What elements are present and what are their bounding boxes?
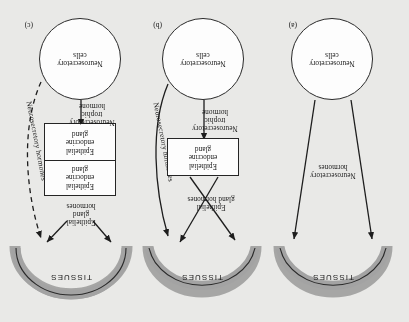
neurosecretory-cells-node: Neurosecretory cells xyxy=(39,18,121,100)
label-neurosecretory-trophic-hormone: Neurosecretory trophic hormone xyxy=(61,101,123,126)
label-epithelial-gland-hormones: Epithelial gland hormones xyxy=(53,201,109,226)
tissues-label: TISSUES xyxy=(181,273,223,282)
epithelial-endocrine-gland-box: Epithelial endocrine gland xyxy=(167,138,239,176)
epithelial-endocrine-gland-box-2: Epithelial endocrine gland xyxy=(44,158,116,196)
label-neurosecretory-trophic-hormone: Neurosecretory trophic hormone xyxy=(184,107,246,132)
figure-canvas: TISSUES Neurosecretory hormones Neurosec… xyxy=(0,0,409,322)
neurosecretory-cells-node: Neurosecretory cells xyxy=(162,18,244,100)
tissues-label: TISSUES xyxy=(50,273,92,282)
panel-b: Neurosecretory hormones TISSUES Epitheli… xyxy=(130,0,266,322)
neurosecretory-cells-node: Neurosecretory cells xyxy=(291,18,373,100)
panel-c: Neurosecretory hormones TISSUES Epitheli… xyxy=(1,0,137,322)
tissues-arc xyxy=(16,248,126,295)
tissues-arc-outline xyxy=(16,248,126,295)
epithelial-endocrine-gland-box-1: Epithelial endocrine gland xyxy=(44,123,116,161)
label-neurosecretory-hormones: Neurosecretory hormones xyxy=(299,163,367,179)
panel-tag-a: (a) xyxy=(289,21,297,30)
panel-tag-c: (c) xyxy=(25,21,33,30)
label-epithelial-gland-hormones: Epithelial gland hormones xyxy=(178,195,244,211)
panel-a: TISSUES Neurosecretory hormones Neurosec… xyxy=(265,0,401,322)
panel-tag-b: (b) xyxy=(153,21,162,30)
tissues-label: TISSUES xyxy=(312,273,354,282)
